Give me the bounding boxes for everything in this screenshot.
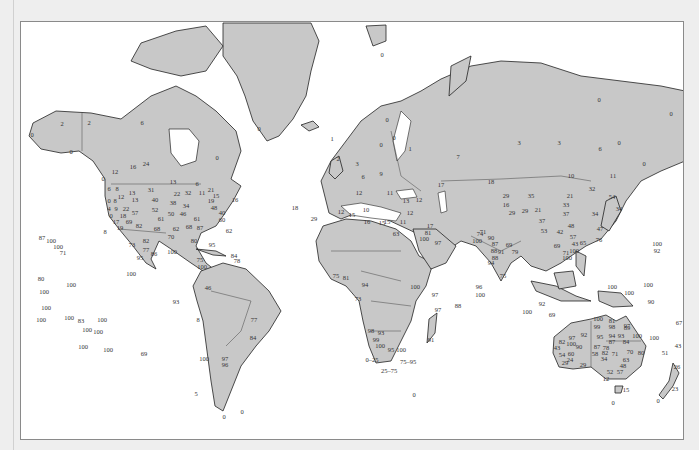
- map-value-label: 12: [356, 190, 363, 197]
- map-value-label: 83: [78, 318, 85, 325]
- map-value-label: 21: [535, 207, 542, 214]
- map-value-label: 70: [627, 349, 634, 356]
- map-value-label: 3: [557, 140, 560, 147]
- map-value-label: 97: [435, 240, 442, 247]
- map-value-label: 18: [488, 179, 495, 186]
- map-value-label: 100: [93, 329, 103, 336]
- map-value-label: 34: [616, 206, 623, 213]
- map-value-label: 100: [39, 289, 49, 296]
- map-value-label: 82: [136, 223, 143, 230]
- map-value-label: 87: [39, 235, 46, 242]
- map-value-label: 0: [412, 392, 415, 399]
- map-value-label: 12: [407, 210, 414, 217]
- map-value-label: 17: [438, 182, 445, 189]
- map-value-label: 12: [416, 197, 423, 204]
- map-value-label: 11: [387, 190, 393, 197]
- map-value-label: 53: [541, 228, 548, 235]
- map-value-label: 0: [69, 149, 72, 156]
- map-value-label: 29: [522, 208, 529, 215]
- map-value-label: 13: [403, 198, 410, 205]
- map-value-label: 0: [611, 400, 614, 407]
- map-value-label: 97: [432, 292, 439, 299]
- landmass-greenland: [223, 23, 319, 141]
- map-value-label: 58: [592, 351, 599, 358]
- map-value-label: 75: [500, 273, 507, 280]
- map-value-label: 52: [152, 207, 159, 214]
- map-value-label: 94: [488, 260, 495, 267]
- map-value-label: 0: [107, 198, 110, 205]
- map-value-label: 8: [103, 229, 106, 236]
- map-value-label: 16: [503, 202, 510, 209]
- map-value-label: 75–95: [400, 359, 416, 366]
- map-value-label: 21: [567, 193, 574, 200]
- map-value-label: 8: [113, 198, 116, 205]
- map-value-label: 6: [195, 181, 198, 188]
- map-value-label: 1: [330, 136, 333, 143]
- map-value-label: 10: [363, 207, 370, 214]
- map-value-label: 73: [129, 242, 136, 249]
- map-value-label: 11: [610, 173, 616, 180]
- map-value-label: 48: [211, 205, 218, 212]
- map-value-label: 0: [101, 176, 104, 183]
- map-value-label: 15: [213, 193, 220, 200]
- map-value-label: 69: [141, 351, 148, 358]
- map-value-label: 0: [257, 126, 260, 133]
- map-value-label: 100: [522, 309, 532, 316]
- map-value-label: 68: [186, 224, 193, 231]
- map-value-label: 100: [66, 282, 76, 289]
- map-value-label: 75: [333, 273, 340, 280]
- map-value-label: 47: [597, 226, 604, 233]
- map-value-label: 29: [562, 360, 569, 367]
- map-value-label: 100: [410, 284, 420, 291]
- map-value-label: 22: [174, 191, 181, 198]
- map-value-label: 37: [539, 218, 546, 225]
- map-value-label: 34: [183, 203, 190, 210]
- map-value-label: 54: [609, 194, 616, 201]
- map-value-label: 100: [199, 356, 209, 363]
- map-value-label: 46: [205, 285, 212, 292]
- map-value-label: 16: [232, 197, 239, 204]
- map-value-label: 0: [240, 409, 243, 416]
- map-value-label: 84: [250, 335, 257, 342]
- map-value-label: 100: [126, 271, 136, 278]
- map-value-label: 8: [115, 186, 118, 193]
- map-value-label: 35: [528, 193, 535, 200]
- map-value-label: 6: [361, 174, 364, 181]
- map-value-label: 100: [78, 344, 88, 351]
- map-value-label: 100: [593, 316, 603, 323]
- landmass-arctic-archipelago: [131, 26, 223, 76]
- map-value-label: 32: [589, 186, 596, 193]
- map-value-label: 11: [400, 219, 406, 226]
- map-value-label: 80: [191, 238, 198, 245]
- map-value-label: 100: [472, 238, 482, 245]
- map-value-label: 3: [517, 140, 520, 147]
- map-value-label: 2: [336, 156, 339, 163]
- map-value-label: 0: [597, 97, 600, 104]
- map-value-label: 99: [594, 324, 601, 331]
- map-value-label: 90: [648, 299, 655, 306]
- map-value-label: 69: [554, 243, 561, 250]
- map-value-label: 15: [349, 212, 356, 219]
- map-value-label: 12: [112, 169, 119, 176]
- map-value-label: 92: [654, 248, 661, 255]
- map-value-label: 94: [362, 282, 369, 289]
- map-value-label: 2: [87, 120, 90, 127]
- map-value-label: 13: [170, 179, 177, 186]
- map-value-label: 8: [196, 317, 199, 324]
- map-value-label: 0: [30, 132, 33, 139]
- map-value-label: 100: [64, 315, 74, 322]
- map-value-label: 71: [60, 250, 67, 257]
- map-value-label: 97: [435, 307, 442, 314]
- map-value-label: 81: [343, 275, 350, 282]
- map-value-label: 29: [311, 216, 318, 223]
- map-value-label: 2: [60, 121, 63, 128]
- map-value-label: 92: [539, 301, 546, 308]
- map-value-label: 96: [222, 362, 229, 369]
- map-value-label: 34: [592, 211, 599, 218]
- map-value-label: 96: [476, 284, 483, 291]
- map-value-label: 70: [168, 234, 175, 241]
- map-value-label: 15: [379, 220, 386, 227]
- map-value-label: 46: [180, 211, 187, 218]
- landmass-svalbard: [366, 25, 386, 46]
- map-value-label: 100: [97, 317, 107, 324]
